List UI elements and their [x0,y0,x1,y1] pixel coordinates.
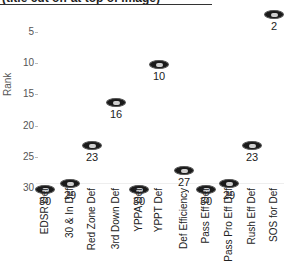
data-value-label: 27 [172,176,196,188]
x-tick-label: YPPT Def [153,188,164,232]
x-tick-label: Def Efficiency [178,188,189,249]
title-underline [0,4,212,5]
x-tick-label: 3rd Down Def [110,188,121,249]
y-tick-label: 5 [16,26,34,37]
team-logo-marker-icon [60,179,80,188]
x-tick-label: EDSR Def [39,188,50,234]
y-tick-label: 30 [16,182,34,193]
x-tick-label: 30 & In Def [64,188,75,238]
y-tick-label: 25 [16,151,34,162]
team-logo-marker-icon [174,166,194,175]
team-logo-marker-icon [149,60,169,69]
team-logo-marker-icon [106,98,126,107]
x-tick-label: Pass Eff Def [200,188,211,243]
data-value-label: 23 [80,151,104,163]
x-tick-label: Pass Pro Eff Def [223,188,234,262]
y-tick-label: 20 [16,120,34,131]
x-tick-label: Red Zone Def [86,188,97,250]
team-logo-marker-icon [219,179,239,188]
x-tick-label: YPPA Def [133,188,144,232]
data-value-label: 16 [104,108,128,120]
team-logo-marker-icon [264,10,284,19]
data-value-label: 2 [262,20,286,32]
team-logo-marker-icon [82,141,102,150]
data-value-label: 23 [240,151,264,163]
team-logo-marker-icon [242,141,262,150]
y-tick-label: 15 [16,88,34,99]
x-tick-label: Rush Eff Def [246,188,257,245]
y-tick-label: 10 [16,57,34,68]
x-tick-label: SOS for Def [268,188,279,242]
y-axis-label: Rank [2,73,13,96]
data-value-label: 10 [147,70,171,82]
